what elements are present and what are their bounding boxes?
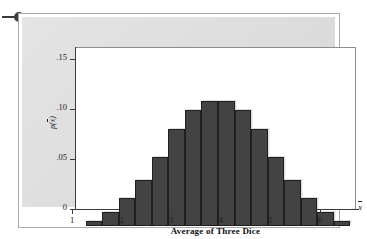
x-tick-mark [72,210,73,214]
y-tick-mark [70,159,75,160]
x-bar-glyph: x [358,202,362,212]
y-tick-label: .05 [56,152,67,162]
x-tick-mark [270,210,271,214]
x-tick-label: 6 [318,215,322,225]
y-tick-mark [70,59,75,60]
x-axis-variable-symbol: x [358,202,362,212]
x-tick-mark [320,210,321,214]
y-axis-title-var: x [48,119,57,123]
y-tick-mark [70,109,75,110]
x-tick-label: 1 [70,215,74,225]
x-tick-label: 5 [268,215,272,225]
x-tick-label: 2 [119,215,123,225]
x-axis-title: Average of Three Dice [75,226,356,236]
y-axis-ticks: 0.05.10.15 [22,17,75,210]
y-axis-title: p(x) [48,116,57,129]
x-tick-label: 3 [169,215,173,225]
x-tick-label: 4 [219,215,223,225]
y-tick-label: 0 [63,202,67,212]
y-tick-label: .15 [56,52,67,62]
y-axis-line [75,47,76,210]
plot-panel: 0.05.10.15 p(x) 123456 x Average of Thre… [22,17,335,207]
x-tick-mark [221,210,222,214]
y-tick-label: .10 [56,102,67,112]
x-axis-line [75,209,359,210]
y-axis-title-prefix: p( [48,122,57,129]
x-tick-mark [171,210,172,214]
x-tick-mark [122,210,123,214]
plot-area [75,47,356,210]
